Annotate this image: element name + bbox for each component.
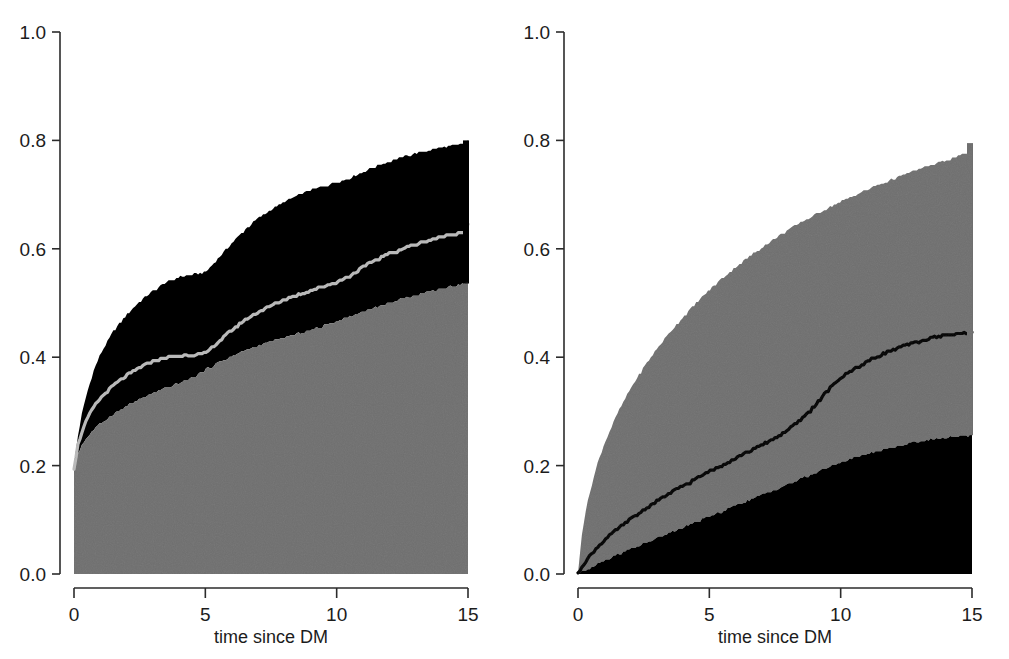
x-tick-label: 5 [200, 604, 211, 625]
right-x-axis-title: time since DM [718, 627, 832, 647]
x-tick-label: 15 [457, 604, 478, 625]
x-tick-label: 15 [961, 604, 982, 625]
x-tick-label: 5 [704, 604, 715, 625]
y-tick-label: 1.0 [524, 22, 550, 43]
figure-canvas: 0.00.20.40.60.81.0 051015 time since DM [0, 0, 1009, 659]
y-tick-label: 0.8 [524, 130, 550, 151]
y-tick-label: 0.8 [20, 130, 46, 151]
left-right-edge-tick [463, 140, 469, 283]
y-tick-label: 1.0 [20, 22, 46, 43]
y-tick-label: 0.2 [20, 456, 46, 477]
y-tick-label: 0.6 [20, 239, 46, 260]
panel-right: 0.00.20.40.60.81.0 051015 time since DM [504, 0, 1009, 659]
y-tick-label: 0.4 [524, 347, 551, 368]
right-x-tick-group: 051015 [573, 588, 983, 625]
x-tick-label: 0 [69, 604, 80, 625]
panel-right-plot: 0.00.20.40.60.81.0 051015 time since DM [504, 0, 1009, 659]
y-tick-label: 0.0 [524, 564, 550, 585]
y-tick-label: 0.2 [524, 456, 550, 477]
left-x-axis-title: time since DM [214, 627, 328, 647]
y-tick-label: 0.0 [20, 564, 46, 585]
x-tick-label: 10 [326, 604, 347, 625]
x-tick-label: 0 [573, 604, 584, 625]
x-tick-label: 10 [830, 604, 851, 625]
panel-left: 0.00.20.40.60.81.0 051015 time since DM [0, 0, 505, 659]
right-y-tick-group: 0.00.20.40.60.81.0 [524, 22, 564, 585]
panel-left-plot: 0.00.20.40.60.81.0 051015 time since DM [0, 0, 505, 659]
y-tick-label: 0.6 [524, 239, 550, 260]
y-tick-label: 0.4 [20, 347, 47, 368]
left-y-tick-group: 0.00.20.40.60.81.0 [20, 22, 60, 585]
left-x-tick-group: 051015 [69, 588, 479, 625]
